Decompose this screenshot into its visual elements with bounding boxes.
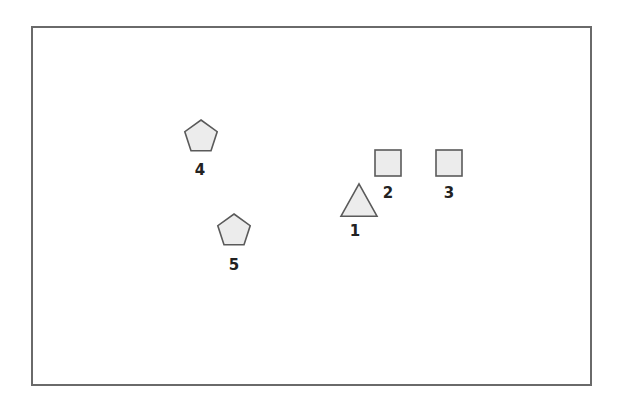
node-triangle-1 (341, 184, 377, 216)
node-label-3: 3 (444, 186, 454, 201)
node-square-2 (375, 150, 401, 176)
node-label-4: 4 (195, 163, 205, 178)
node-label-5: 5 (229, 258, 239, 273)
node-pentagon-5 (218, 214, 250, 245)
node-label-1: 1 (350, 224, 360, 239)
diagram-canvas (0, 0, 622, 413)
node-square-3 (436, 150, 462, 176)
node-pentagon-4 (185, 120, 217, 151)
node-label-2: 2 (383, 186, 393, 201)
